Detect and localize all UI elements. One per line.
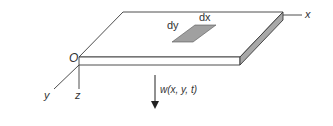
z-axis-label: z <box>75 90 81 101</box>
y-axis-line <box>54 65 79 89</box>
element-dy-label: dy <box>167 20 179 31</box>
origin-label: O <box>69 52 78 64</box>
deflection-label: w(x, y, t) <box>160 85 197 95</box>
y-axis-label: y <box>44 90 50 101</box>
deflection-arrow-head <box>151 101 159 109</box>
plate-front-face <box>79 57 240 65</box>
element-dx-label: dx <box>199 12 211 23</box>
x-axis-label: x <box>305 9 311 20</box>
